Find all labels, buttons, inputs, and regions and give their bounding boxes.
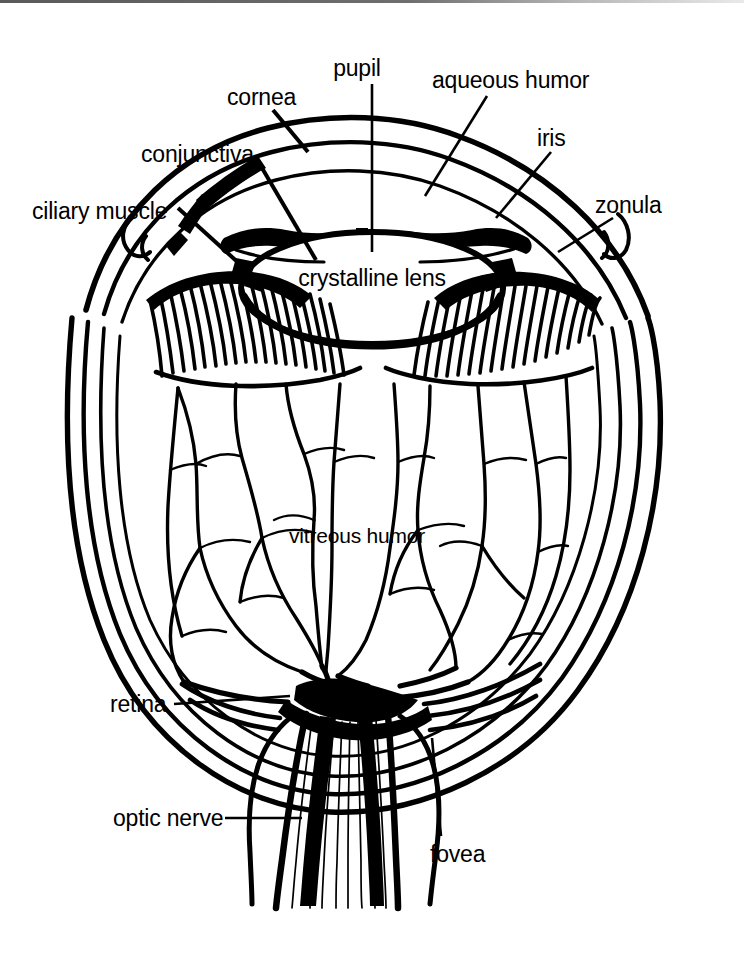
label-pupil: pupil (333, 55, 381, 81)
label-conjunctiva: conjunctiva (141, 141, 254, 167)
label-iris: iris (537, 125, 566, 151)
label-retina: retina (110, 691, 167, 717)
label-ciliary-muscle: ciliary muscle (32, 198, 167, 224)
label-optic-nerve: optic nerve (113, 805, 223, 831)
label-crystalline-lens: crystalline lens (298, 265, 446, 291)
label-cornea: cornea (227, 84, 297, 110)
label-zonula: zonula (595, 192, 662, 218)
label-aqueous-humor: aqueous humor (432, 67, 590, 93)
label-texts: pupil aqueous humor cornea iris conjunct… (32, 55, 662, 867)
eye-anatomy-figure: pupil aqueous humor cornea iris conjunct… (0, 0, 744, 970)
eye-cross-section-svg: pupil aqueous humor cornea iris conjunct… (0, 0, 744, 970)
label-fovea: fovea (430, 841, 486, 867)
label-vitreous-humor: vitreous humor (289, 524, 425, 547)
